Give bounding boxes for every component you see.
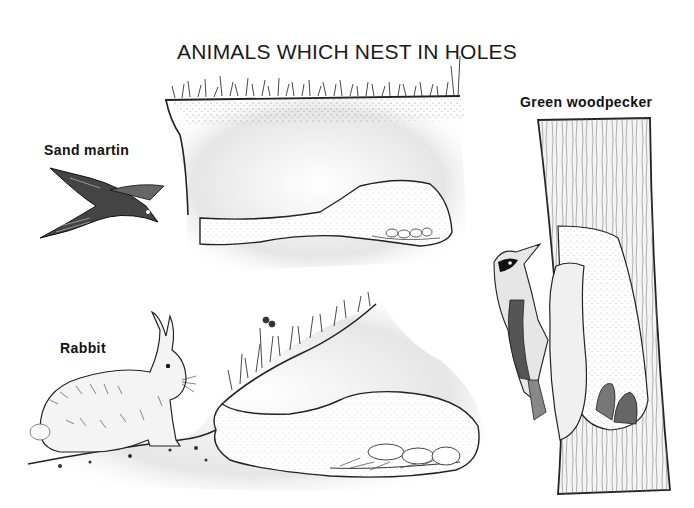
green-woodpecker [494,244,548,420]
label-rabbit: Rabbit [60,340,106,356]
label-green-woodpecker: Green woodpecker [520,94,652,110]
sand-martin-bird [40,168,164,238]
rabbit [30,312,196,452]
tree-nest-hole [538,118,670,494]
illustration-canvas [0,0,694,508]
label-sand-martin: Sand martin [44,142,129,158]
sand-martin-burrow [165,56,468,272]
grass-tufts [172,56,460,98]
